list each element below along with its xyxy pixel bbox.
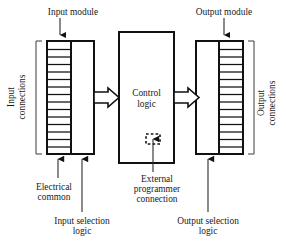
block-diagram-svg: Control logic bbox=[0, 0, 286, 251]
diagram-canvas: Control logic bbox=[0, 0, 286, 251]
input-connections-label-line1: Input bbox=[6, 87, 16, 107]
external-prog-label-line3: connection bbox=[136, 194, 177, 204]
input-connections-label-line2: connections bbox=[17, 74, 27, 119]
external-prog-label-line1: External bbox=[141, 174, 173, 184]
control-logic-label-line2: logic bbox=[137, 99, 156, 109]
input-module-group[interactable] bbox=[47, 41, 94, 154]
input-connections-bracket bbox=[36, 41, 42, 154]
control-logic-group[interactable]: Control logic bbox=[119, 32, 174, 163]
external-prog-label-line2: programmer bbox=[134, 184, 181, 194]
electrical-common-label-line1: Electrical bbox=[36, 182, 72, 192]
input-selection-label-line2: logic bbox=[73, 226, 92, 236]
output-connections-bracket bbox=[248, 41, 254, 154]
output-module-group[interactable] bbox=[196, 41, 243, 154]
output-connections-label: Output connections bbox=[256, 80, 277, 125]
output-module-label: Output module bbox=[196, 7, 253, 17]
electrical-common-label-line2: common bbox=[38, 192, 71, 202]
input-module-label: Input module bbox=[48, 7, 98, 17]
control-logic-label-line1: Control bbox=[132, 88, 161, 98]
output-selection-label-line1: Output selection bbox=[177, 216, 239, 226]
arrow-input-to-control bbox=[94, 88, 119, 107]
output-connections-label-line2: connections bbox=[267, 80, 277, 125]
input-connections-label: Input connections bbox=[6, 74, 27, 119]
output-connections-label-line1: Output bbox=[256, 90, 266, 116]
input-selection-label-line1: Input selection bbox=[54, 216, 110, 226]
output-selection-label-line2: logic bbox=[199, 226, 218, 236]
